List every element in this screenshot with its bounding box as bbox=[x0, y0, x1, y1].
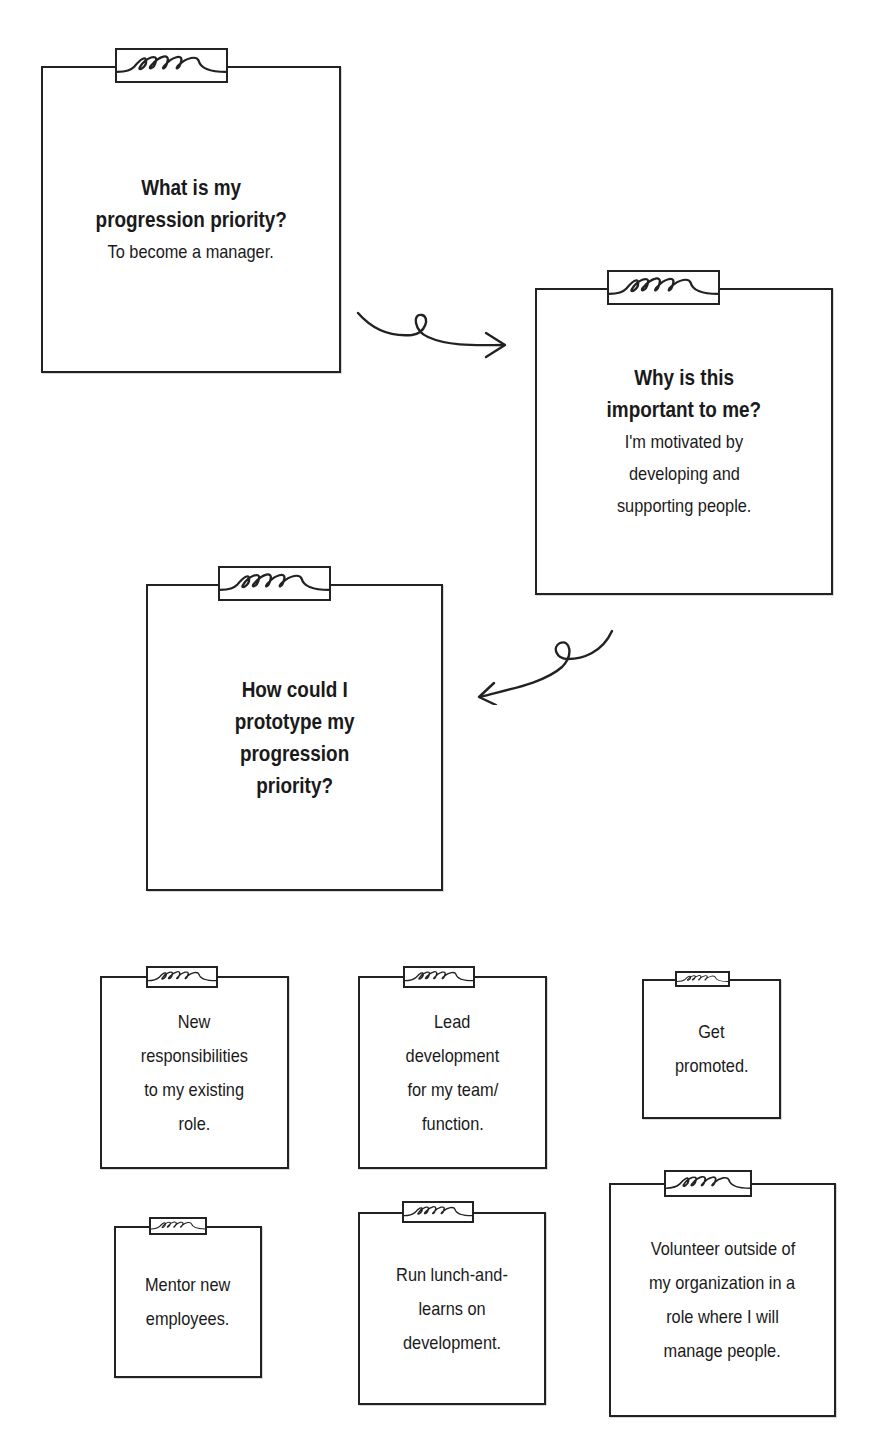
paper-clip-coil-icon bbox=[402, 1201, 474, 1223]
idea-line: New bbox=[178, 1005, 211, 1039]
idea-line: responsibilities bbox=[141, 1039, 248, 1073]
card-question-line: important to me? bbox=[607, 394, 762, 426]
paper-clip-coil-icon bbox=[607, 270, 720, 305]
idea-card-lunch-and-learns: Run lunch-and- learns on development. bbox=[358, 1212, 546, 1405]
paper-clip-coil-icon bbox=[115, 48, 228, 83]
idea-line: for my team/ bbox=[407, 1073, 498, 1107]
idea-line: role. bbox=[179, 1107, 211, 1141]
idea-line: Get bbox=[698, 1015, 724, 1049]
card-question-line: How could I bbox=[241, 674, 347, 706]
paper-clip-coil-icon bbox=[664, 1170, 752, 1197]
idea-card-new-responsibilities: New responsibilities to my existing role… bbox=[100, 976, 289, 1169]
paper-clip-coil-icon bbox=[218, 566, 331, 601]
flow-card-progression-priority: What is my progression priority? To beco… bbox=[41, 66, 341, 373]
idea-line: Run lunch-and- bbox=[396, 1258, 508, 1292]
idea-line: function. bbox=[422, 1107, 484, 1141]
idea-line: Mentor new bbox=[145, 1268, 230, 1302]
idea-line: learns on bbox=[418, 1292, 485, 1326]
paper-clip-coil-icon bbox=[146, 966, 218, 988]
paper-clip-coil-icon bbox=[403, 966, 475, 988]
idea-card-lead-development: Lead development for my team/ function. bbox=[358, 976, 547, 1169]
card-answer-line: I'm motivated by bbox=[625, 426, 743, 458]
idea-card-mentor: Mentor new employees. bbox=[114, 1226, 262, 1378]
paper-clip-coil-icon bbox=[149, 1217, 207, 1235]
card-answer-line: To become a manager. bbox=[108, 236, 274, 268]
idea-line: employees. bbox=[146, 1302, 230, 1336]
flow-card-prototype: How could I prototype my progression pri… bbox=[146, 584, 443, 891]
idea-line: to my existing bbox=[145, 1073, 245, 1107]
card-answer-line: supporting people. bbox=[617, 490, 751, 522]
card-question-line: What is my bbox=[141, 172, 241, 204]
idea-line: promoted. bbox=[675, 1049, 749, 1083]
idea-line: Lead bbox=[434, 1005, 470, 1039]
idea-line: manage people. bbox=[664, 1334, 781, 1368]
idea-line: development bbox=[406, 1039, 500, 1073]
curly-arrow-left-icon bbox=[470, 625, 620, 705]
idea-card-get-promoted: Get promoted. bbox=[642, 979, 781, 1119]
flow-card-importance: Why is this important to me? I'm motivat… bbox=[535, 288, 833, 595]
card-question-line: progression priority? bbox=[95, 204, 286, 236]
idea-line: my organization in a bbox=[649, 1266, 795, 1300]
curly-arrow-right-icon bbox=[350, 295, 510, 365]
paper-clip-coil-icon bbox=[675, 971, 730, 987]
card-question-line: progression bbox=[240, 738, 349, 770]
idea-line: role where I will bbox=[666, 1300, 779, 1334]
idea-card-volunteer: Volunteer outside of my organization in … bbox=[609, 1183, 836, 1417]
card-question-line: prototype my bbox=[235, 706, 355, 738]
idea-line: development. bbox=[403, 1326, 501, 1360]
idea-line: Volunteer outside of bbox=[650, 1232, 794, 1266]
card-question-line: Why is this bbox=[634, 362, 734, 394]
cropped-heading-remnant bbox=[100, 0, 780, 6]
card-question-line: priority? bbox=[256, 770, 333, 802]
card-answer-line: developing and bbox=[629, 458, 740, 490]
